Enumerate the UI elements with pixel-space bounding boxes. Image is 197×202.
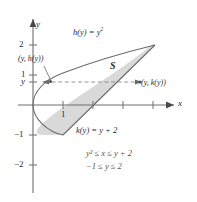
marker-point-on-parabola: [49, 80, 52, 83]
x-axis-label: x: [178, 99, 182, 108]
region-label-S: S: [110, 61, 116, 71]
leader-line-parabola-point: [44, 66, 50, 79]
annotation-inequality-x: y² ≤ x ≤ y + 2: [86, 149, 132, 158]
y-tick-label-neg2: −2: [14, 160, 24, 169]
region-shape-S: [37, 44, 156, 135]
x-tick-label-1: 1: [61, 110, 66, 119]
y-tick-label-neg1: −1: [14, 130, 24, 139]
y-tick-label-2: 2: [19, 40, 24, 49]
dashed-slice-arrow-left: [42, 79, 49, 84]
point-label-line: (y, k(y)): [141, 79, 166, 87]
parabola-equation-exponent: 2: [100, 26, 103, 32]
y-axis-label: y: [36, 20, 40, 29]
y-tick-label-generic: y: [21, 77, 25, 86]
parabola-equation-label: h(y) = y2: [73, 28, 103, 37]
line-curve: [63, 45, 155, 135]
figure-canvas: y x 2 1 y −1 −2 1 h(y) = y2 (y, h(y)) (y…: [0, 0, 197, 202]
annotation-inequality-y: −1 ≤ y ≤ 2: [86, 162, 122, 171]
x-axis-arrowhead: [166, 102, 174, 109]
point-label-parabola: (y, h(y)): [18, 55, 43, 63]
parabola-equation-text: h(y) = y: [73, 27, 100, 37]
line-equation-label: k(y) = y + 2: [76, 126, 117, 135]
